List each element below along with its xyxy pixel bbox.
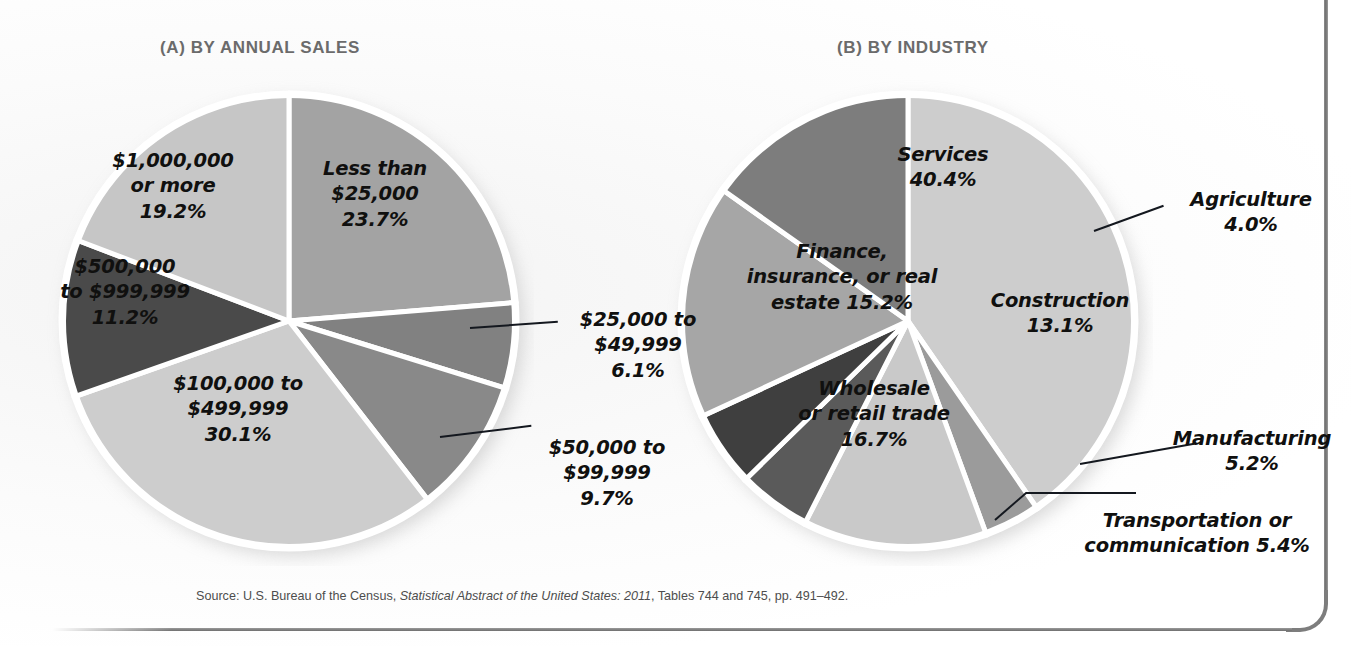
frame-bottom-fade [52, 628, 172, 631]
source-suffix: , Tables 744 and 745, pp. 491–492. [651, 589, 848, 603]
slice-label-services: Services 40.4% [858, 142, 1028, 193]
slice-label-transportation: Transportation or communication 5.4% [1052, 508, 1342, 559]
source-prefix: Source: U.S. Bureau of the Census, [196, 589, 400, 603]
slice-label-100000-499999: $100,000 to $499,999 30.1% [138, 371, 338, 447]
slice-label-manufacturing: Manufacturing 5.2% [1156, 426, 1348, 477]
leader-line-transportation-2 [1026, 492, 1136, 494]
slice-label-500000-999999: $500,000 to $999,999 11.2% [30, 254, 220, 330]
panel-b-title: (B) BY INDUSTRY [837, 38, 989, 58]
slice-label-construction: Construction 13.1% [967, 288, 1153, 339]
slice-label-1000000-or-more: $1,000,000 or more 19.2% [78, 148, 268, 224]
slice-label-finance-insurance: Finance, insurance, or real estate 15.2% [720, 239, 964, 315]
slice-label-agriculture: Agriculture 4.0% [1158, 187, 1344, 238]
slice-label-50000-99999: $50,000 to $99,999 9.7% [512, 435, 702, 511]
slice-label-wholesale-retail: Wholesale or retail trade 16.7% [766, 376, 982, 452]
slice-label-less-than-25000: Less than $25,000 23.7% [295, 156, 455, 232]
source-title: Statistical Abstract of the United State… [400, 589, 651, 603]
frame-bottom-right-corner [1286, 590, 1328, 632]
figure-canvas: (A) BY ANNUAL SALES (B) BY INDUSTRY Less… [0, 0, 1351, 646]
panel-a-title: (A) BY ANNUAL SALES [160, 38, 360, 58]
source-note: Source: U.S. Bureau of the Census, Stati… [196, 589, 848, 603]
slice-label-25000-49999: $25,000 to $49,999 6.1% [543, 307, 733, 383]
frame-bottom-rule [52, 628, 1292, 631]
